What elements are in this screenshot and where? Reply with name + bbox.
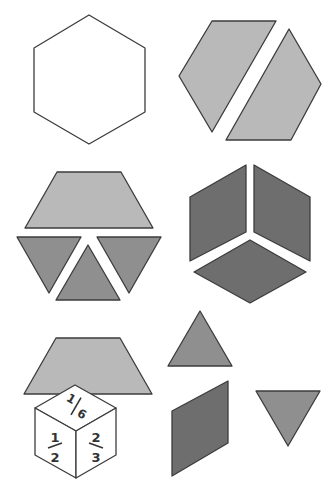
rhombus-cube: [190, 165, 310, 303]
fraction-left-denominator: 2: [50, 450, 59, 465]
fraction-left-numerator: 1: [50, 430, 59, 445]
trapezoid-top: [25, 172, 153, 228]
pattern-blocks-canvas: 1 6 1 2 2 3: [0, 0, 332, 493]
single-rhombus: [172, 381, 228, 476]
single-triangle-down: [256, 391, 320, 446]
fraction-right-denominator: 3: [91, 450, 100, 465]
single-trapezoid: [24, 338, 152, 394]
trapezoid-and-triangles: [17, 172, 161, 300]
single-triangle-up: [168, 311, 232, 366]
fraction-right-numerator: 2: [91, 430, 100, 445]
hexagon-shape: [34, 15, 145, 144]
trapezoid-pair: [179, 21, 321, 140]
